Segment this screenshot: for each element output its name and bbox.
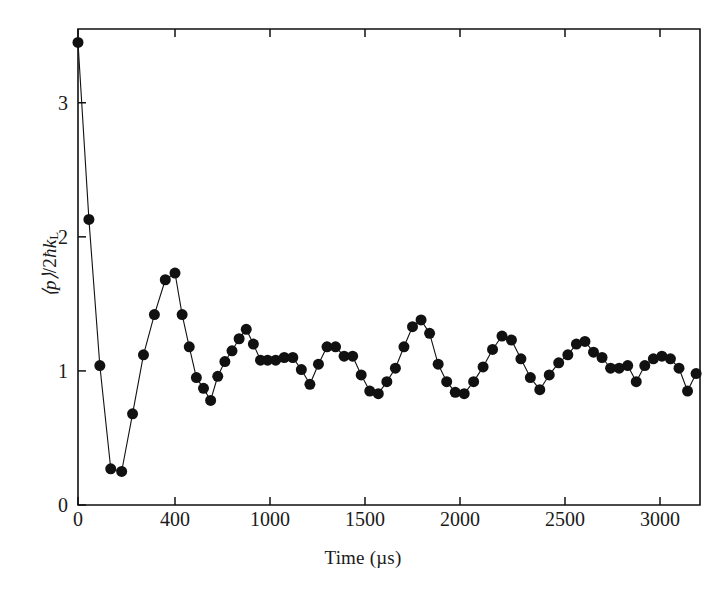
- data-point: [73, 37, 84, 48]
- data-point: [170, 268, 181, 279]
- data-point: [94, 360, 105, 371]
- data-point: [416, 314, 427, 325]
- data-markers: [73, 37, 702, 477]
- x-axis-title: Time (µs): [0, 547, 726, 569]
- data-point: [198, 383, 209, 394]
- data-point: [356, 369, 367, 380]
- data-point: [553, 357, 564, 368]
- plot-canvas: [0, 0, 726, 593]
- data-point: [212, 371, 223, 382]
- data-point: [347, 351, 358, 362]
- data-line: [78, 42, 696, 471]
- data-point: [234, 333, 245, 344]
- data-point: [149, 309, 160, 320]
- x-tick-label: 2500: [545, 508, 585, 531]
- data-point: [177, 309, 188, 320]
- data-point: [219, 356, 230, 367]
- x-tick-label: 3000: [640, 508, 680, 531]
- figure-container: Time (µs) ⟨p⟩/2ħkL 040010001500200025003…: [0, 0, 726, 593]
- data-point: [622, 360, 633, 371]
- data-point: [562, 349, 573, 360]
- y-axis-title: ⟨p⟩/2ħkL: [38, 154, 63, 374]
- data-point: [424, 328, 435, 339]
- data-point: [205, 395, 216, 406]
- data-point: [330, 341, 341, 352]
- data-point: [138, 349, 149, 360]
- y-tick-label: 2: [44, 225, 68, 248]
- data-point: [544, 369, 555, 380]
- data-point: [116, 466, 127, 477]
- data-point: [160, 274, 171, 285]
- data-point: [191, 372, 202, 383]
- data-point: [381, 376, 392, 387]
- data-point: [515, 353, 526, 364]
- data-point: [525, 372, 536, 383]
- data-point: [373, 388, 384, 399]
- x-tick-label: 400: [160, 508, 190, 531]
- data-point: [184, 341, 195, 352]
- data-point: [506, 335, 517, 346]
- data-point: [487, 344, 498, 355]
- data-point: [127, 408, 138, 419]
- data-point: [459, 388, 470, 399]
- data-point: [83, 214, 94, 225]
- data-point: [433, 359, 444, 370]
- x-tick-label: 1000: [250, 508, 290, 531]
- data-point: [407, 321, 418, 332]
- axis-ticks: [78, 29, 660, 505]
- data-point: [390, 363, 401, 374]
- axes-frame: [78, 29, 700, 505]
- x-tick-label: 2000: [440, 508, 480, 531]
- data-point: [441, 376, 452, 387]
- data-point: [304, 379, 315, 390]
- y-tick-label: 1: [44, 359, 68, 382]
- data-point: [597, 352, 608, 363]
- data-point: [631, 376, 642, 387]
- data-point: [248, 339, 259, 350]
- data-point: [468, 376, 479, 387]
- data-point: [241, 324, 252, 335]
- data-point: [398, 341, 409, 352]
- x-tick-label: 1500: [345, 508, 385, 531]
- data-point: [478, 361, 489, 372]
- x-tick-label: 0: [73, 508, 83, 531]
- data-point: [682, 386, 693, 397]
- data-point: [534, 384, 545, 395]
- data-point: [105, 463, 116, 474]
- data-point: [296, 364, 307, 375]
- data-point: [227, 345, 238, 356]
- data-point: [287, 352, 298, 363]
- data-point: [313, 359, 324, 370]
- y-tick-label: 0: [44, 494, 68, 517]
- data-point: [674, 363, 685, 374]
- data-point: [665, 353, 676, 364]
- y-tick-label: 3: [44, 91, 68, 114]
- data-point: [497, 331, 508, 342]
- data-point: [691, 368, 702, 379]
- data-point: [579, 336, 590, 347]
